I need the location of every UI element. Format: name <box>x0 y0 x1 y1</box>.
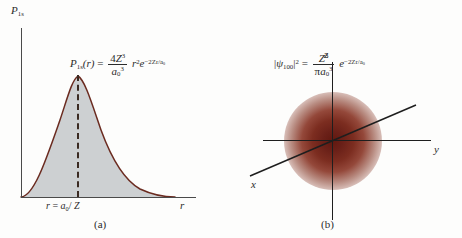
caption-panel-a: (a) <box>94 218 106 230</box>
x-axis-line-panel-b <box>231 0 462 238</box>
y-axis-line-panel-a <box>21 28 22 198</box>
y-axis-label-panel-a: P1s <box>11 4 24 17</box>
formula-radial-probability: P1s(r) = 4Z3a03 r2e−2Zr/a0 <box>70 52 165 78</box>
peak-annotation-label: r = a0/ Z <box>46 200 79 212</box>
x-axis-label-panel-a: r <box>180 199 184 211</box>
y-axis-label-panel-b: y <box>434 143 439 155</box>
x-axis-label-panel-b: x <box>251 178 256 190</box>
panel-b-electron-cloud: z y x |ψ100|2 = Z3πa03 e−2Zr/a0 (b) <box>231 0 462 238</box>
formula-probability-density: |ψ100|2 = Z3πa03 e−2Zr/a0 <box>274 52 365 78</box>
caption-panel-b: (b) <box>321 218 334 230</box>
panel-a-radial-probability: P1s r r = a0/ Z P1s(r) = 4Z3a03 r2e−2Zr/… <box>0 0 231 238</box>
x-axis-line-panel-a <box>21 197 196 198</box>
figure-root: P1s r r = a0/ Z P1s(r) = 4Z3a03 r2e−2Zr/… <box>0 0 462 238</box>
radial-probability-curve <box>0 0 231 238</box>
y-axis-line-panel-b <box>263 140 431 141</box>
peak-dashed-line <box>77 75 79 197</box>
